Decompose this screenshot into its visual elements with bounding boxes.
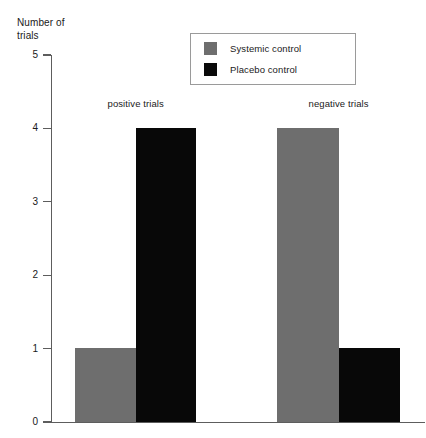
legend: Systemic control Placebo control	[190, 33, 356, 85]
bar-positive-trials-systemic-control	[75, 348, 136, 421]
bar-negative-trials-systemic-control	[277, 128, 339, 422]
legend-label-placebo: Placebo control	[230, 64, 297, 75]
y-tick-label-1: 1	[12, 344, 38, 354]
y-tick-label-4: 4	[12, 123, 38, 133]
legend-entry-systemic: Systemic control	[204, 42, 301, 55]
bar-positive-trials-placebo-control	[136, 128, 197, 422]
y-tick-label-0: 0	[12, 417, 38, 427]
legend-swatch-icon-placebo	[204, 63, 217, 76]
group-label-negative-trials: negative trials	[309, 98, 369, 109]
y-tick-label-3: 3	[12, 197, 38, 207]
legend-label-systemic: Systemic control	[230, 43, 301, 54]
y-tick-label-2: 2	[12, 270, 38, 280]
y-tick-3	[43, 201, 51, 202]
x-axis-line	[51, 422, 425, 424]
y-tick-label-5: 5	[12, 50, 38, 60]
y-tick-2	[43, 275, 51, 276]
y-axis-line	[51, 55, 52, 423]
y-axis-title: Number of trials	[17, 17, 65, 42]
bar-chart: Number of trials 012345 positive trialsn…	[0, 0, 426, 438]
legend-entry-placebo: Placebo control	[204, 63, 297, 76]
group-label-positive-trials: positive trials	[108, 98, 164, 109]
y-tick-0	[43, 421, 51, 422]
y-tick-1	[43, 348, 51, 349]
y-tick-4	[43, 128, 51, 129]
y-tick-5	[43, 54, 51, 55]
legend-swatch-icon-systemic	[204, 42, 217, 55]
bar-negative-trials-placebo-control	[339, 348, 401, 421]
